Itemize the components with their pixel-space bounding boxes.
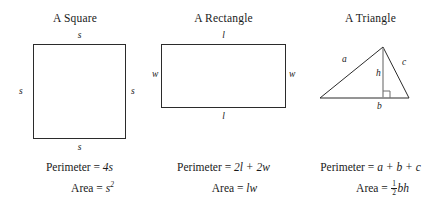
rectangle-label-right: w — [289, 69, 295, 79]
rectangle-shape — [161, 44, 286, 108]
figure-title-rectangle: A Rectangle — [150, 11, 297, 25]
triangle-label-side-a: a — [342, 54, 347, 64]
square-formulas: Perimeter = 4s Area = s2 — [0, 157, 159, 199]
square-area-exponent: 2 — [110, 180, 114, 189]
triangle-perimeter-label: Perimeter = — [320, 161, 377, 173]
square-area-formula: Area = s2 — [0, 178, 159, 199]
square-shape — [33, 44, 126, 139]
rectangle-perimeter-value: 2l + 2w — [234, 161, 270, 173]
figure-panel-triangle: A Triangle a h c b Perimeter = a + b + c… — [297, 0, 444, 209]
square-label-top: s — [0, 30, 159, 40]
figure-title-square: A Square — [0, 11, 150, 25]
square-perimeter-formula: Perimeter = 4s — [0, 157, 159, 178]
triangle-area-formula: Area = 12bh — [297, 178, 444, 199]
rectangle-area-value: lw — [246, 182, 257, 194]
rectangle-area-formula: Area = lw — [150, 178, 297, 199]
triangle-perimeter-value: a + b + c — [377, 161, 421, 173]
square-perimeter-value: 4s — [103, 161, 113, 173]
square-area-label: Area = — [71, 182, 106, 194]
square-perimeter-label: Perimeter = — [46, 161, 103, 173]
rectangle-perimeter-label: Perimeter = — [177, 161, 234, 173]
triangle-label-side-c: c — [402, 57, 406, 67]
figure-panel-square: A Square s s s s Perimeter = 4s Area = s… — [0, 0, 150, 209]
rectangle-perimeter-formula: Perimeter = 2l + 2w — [150, 157, 297, 178]
triangle-shape — [297, 0, 444, 140]
figure-panel-rectangle: A Rectangle l l w w Perimeter = 2l + 2w … — [150, 0, 297, 209]
triangle-area-label: Area = — [356, 182, 391, 194]
triangle-label-base: b — [377, 101, 382, 111]
triangle-area-value: bh — [397, 182, 409, 194]
rectangle-label-left: w — [152, 69, 158, 79]
rectangle-area-label: Area = — [212, 182, 247, 194]
square-label-bottom: s — [0, 142, 159, 152]
square-label-right: s — [131, 86, 135, 96]
triangle-label-height: h — [376, 68, 381, 78]
square-label-left: s — [19, 86, 23, 96]
triangle-outline — [320, 47, 409, 98]
triangle-formulas: Perimeter = a + b + c Area = 12bh — [297, 157, 444, 199]
rectangle-label-bottom: l — [150, 111, 297, 121]
rectangle-formulas: Perimeter = 2l + 2w Area = lw — [150, 157, 297, 199]
rectangle-label-top: l — [150, 30, 297, 40]
triangle-perimeter-formula: Perimeter = a + b + c — [297, 157, 444, 178]
